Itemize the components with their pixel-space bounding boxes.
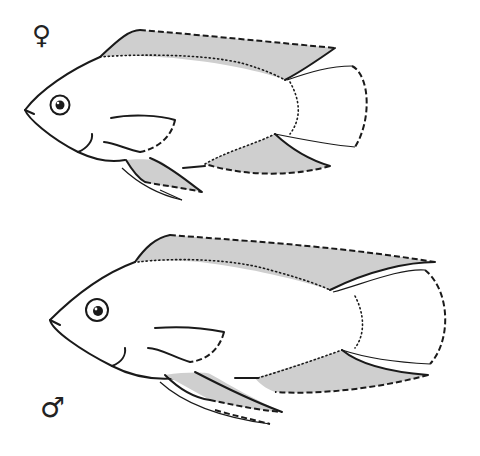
male-dorsal-fin [135,235,435,290]
fish-illustration: .solid { fill:none; stroke:#1a1a1a; stro… [0,0,480,456]
female-body [25,57,125,161]
female-anal-fin [205,134,330,174]
female-fish [25,30,367,200]
male-body [50,262,178,379]
male-fish [50,235,445,424]
